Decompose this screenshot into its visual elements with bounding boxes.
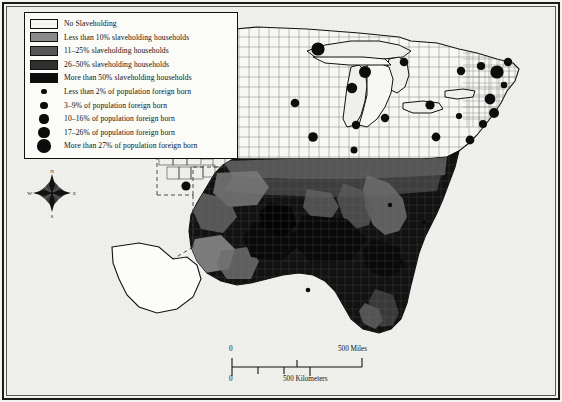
legend-label-fb-3: 17–26% of population foreign born xyxy=(64,129,175,137)
foreign-born-symbol xyxy=(479,120,487,128)
foreign-born-symbol xyxy=(306,288,311,293)
foreign-born-symbol xyxy=(477,62,485,70)
legend-label-fb-2: 10–16% of population foreign born xyxy=(64,115,175,123)
legend-dot-cell-4 xyxy=(30,139,58,153)
compass-label-west: W xyxy=(27,191,32,196)
legend-label-4: More than 50% slaveholding households xyxy=(64,74,192,82)
foreign-born-symbol xyxy=(501,82,508,89)
scale-miles-zero: 0 xyxy=(229,345,233,353)
foreign-born-symbol xyxy=(490,65,503,78)
foreign-born-symbol xyxy=(347,83,357,93)
foreign-born-symbol xyxy=(398,260,402,264)
foreign-born-symbol xyxy=(425,100,434,109)
foreign-born-symbol xyxy=(352,121,360,129)
legend-item-11-25: 11–25% slaveholding households xyxy=(30,44,232,58)
scale-km-zero: 0 xyxy=(229,375,233,383)
legend-label-fb-0: Less than 2% of population foreign born xyxy=(64,88,191,96)
scale-bar-miles xyxy=(232,358,362,367)
compass-label-east: E xyxy=(73,191,76,196)
legend-swatch-4 xyxy=(30,73,58,83)
foreign-born-symbol xyxy=(457,67,465,75)
legend-label-2: 11–25% slaveholding households xyxy=(64,47,169,55)
foreign-born-symbol xyxy=(489,108,499,118)
legend-dot-cell-2 xyxy=(30,114,58,123)
legend-dot-3 xyxy=(38,127,49,138)
legend-item-over-50: More than 50% slaveholding households xyxy=(30,71,232,85)
foreign-born-symbol xyxy=(311,42,324,55)
legend-swatch-0 xyxy=(30,19,58,29)
foreign-born-symbol xyxy=(485,94,496,105)
foreign-born-symbol xyxy=(291,99,300,108)
foreign-born-symbol xyxy=(351,147,358,154)
foreign-born-symbol xyxy=(328,240,333,245)
foreign-born-symbol xyxy=(432,133,441,142)
legend-dot-0 xyxy=(41,89,46,94)
foreign-born-symbol xyxy=(181,181,190,190)
legend-swatch-1 xyxy=(30,32,58,42)
legend-item-fb-under-2: Less than 2% of population foreign born xyxy=(30,85,232,99)
scale-bars: 0 500 Miles 0 500 Kilometers xyxy=(228,346,428,388)
legend-item-fb-over-27: More than 27% of population foreign born xyxy=(30,139,232,153)
foreign-born-symbol xyxy=(359,66,371,78)
legend-item-fb-10-16: 10–16% of population foreign born xyxy=(30,112,232,126)
legend-dot-cell-1 xyxy=(30,102,58,109)
legend-label-1: Less than 10% slaveholding households xyxy=(64,34,189,42)
compass-star-icon xyxy=(33,174,71,212)
legend-dot-4 xyxy=(37,139,51,153)
legend-dot-1 xyxy=(40,102,47,109)
legend-label-fb-4: More than 27% of population foreign born xyxy=(64,142,198,150)
compass-rose: N E S W xyxy=(26,168,78,218)
legend-item-no-slaveholding: No Slaveholding xyxy=(30,17,232,31)
scale-miles-label: 500 Miles xyxy=(338,345,367,353)
legend-dot-cell-0 xyxy=(30,89,58,94)
foreign-born-symbol xyxy=(504,58,512,66)
foreign-born-symbol xyxy=(400,58,409,67)
foreign-born-symbol xyxy=(308,132,318,142)
map-figure: No Slaveholding Less than 10% slaveholdi… xyxy=(0,0,562,402)
legend-label-fb-1: 3–9% of population foreign born xyxy=(64,102,167,110)
legend-label-3: 26–50% slaveholding households xyxy=(64,61,169,69)
map-legend: No Slaveholding Less than 10% slaveholdi… xyxy=(24,12,238,159)
foreign-born-symbol xyxy=(422,220,426,224)
legend-dot-2 xyxy=(39,114,48,123)
compass-label-south: S xyxy=(51,214,54,219)
legend-label-0: No Slaveholding xyxy=(64,20,117,28)
legend-item-under-10: Less than 10% slaveholding households xyxy=(30,31,232,45)
legend-swatch-2 xyxy=(30,46,58,56)
legend-item-fb-3-9: 3–9% of population foreign born xyxy=(30,99,232,113)
foreign-born-symbol xyxy=(381,114,389,122)
scale-km-label: 500 Kilometers xyxy=(283,375,328,383)
legend-item-26-50: 26–50% slaveholding households xyxy=(30,58,232,72)
foreign-born-symbol xyxy=(388,203,393,208)
compass-label-north: N xyxy=(50,169,54,174)
foreign-born-symbol xyxy=(286,250,291,255)
foreign-born-symbol xyxy=(466,136,475,145)
legend-dot-cell-3 xyxy=(30,127,58,138)
legend-item-fb-17-26: 17–26% of population foreign born xyxy=(30,126,232,140)
legend-swatch-3 xyxy=(30,60,58,70)
foreign-born-symbol xyxy=(456,113,462,119)
